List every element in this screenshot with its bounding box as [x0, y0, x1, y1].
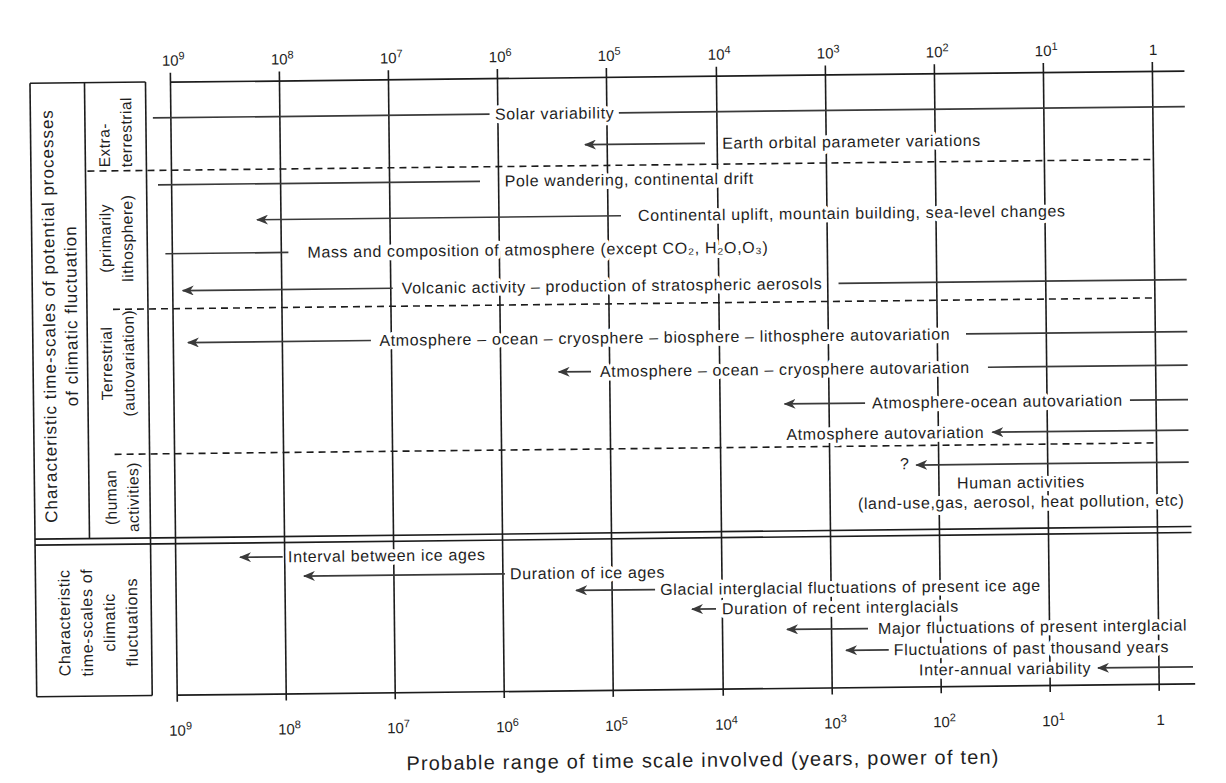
range-arrow-atmosphere-autovariation [992, 430, 1188, 432]
category-lithosphere-line-2: lithosphere) [118, 195, 136, 282]
fluctuation-labels: Interval between ice ages Duration of ic… [288, 538, 1188, 685]
bottom-tick-label: 103 [824, 712, 847, 731]
process-label: Continental uplift, mountain building, s… [638, 202, 1066, 224]
bottom-tick-label: 108 [278, 718, 301, 737]
range-arrow-orbital [585, 143, 705, 144]
fluctuations-title-line-4: fluctuations [123, 578, 141, 667]
top-tick-label: 108 [271, 48, 294, 67]
gridline-1e5 [606, 68, 613, 697]
top-tick-label: 105 [598, 45, 621, 64]
top-tick-labels: 109 108 107 106 105 104 103 102 101 1 [162, 39, 1158, 69]
category-extraterrestrial-line-2: terrestrial [117, 97, 135, 167]
range-line-atmosphere-composition [165, 252, 288, 253]
range-arrow-ocean-autovariation [785, 403, 865, 404]
fluctuations-panel-labels: Characteristic time-scales of climatic f… [55, 568, 141, 677]
human-activities-detail: (land-use,gas, aerosol, heat pollution, … [858, 492, 1185, 513]
bottom-tick-label: 106 [496, 716, 519, 735]
gridline-1e7 [388, 70, 395, 699]
section-divider-double-1 [35, 527, 1191, 540]
range-line-volcanic-right [839, 280, 1187, 284]
figure-content: Characteristic time-scales of potential … [30, 39, 1196, 779]
panel-left-edge [30, 83, 37, 696]
fluctuations-title-line-2: time-scales of [78, 569, 96, 677]
section-divider-double-2 [35, 533, 1191, 546]
process-label: Pole wandering, continental drift [504, 170, 753, 190]
range-line-solar-right [619, 107, 1185, 113]
human-activities-label: Human activities [957, 473, 1085, 491]
panel-bottom-edge [37, 695, 152, 696]
process-label: Atmosphere autovariation [786, 424, 984, 443]
bottom-axis-line [177, 684, 1195, 695]
climate-timescale-chart: Characteristic time-scales of potential … [0, 0, 1226, 783]
process-label: Solar variability [495, 104, 615, 122]
category-lithosphere-line-1: (primarily [96, 204, 114, 273]
range-arrow-glacial-interglacial [576, 590, 655, 591]
process-label: Mass and composition of atmosphere (exce… [307, 239, 768, 261]
range-line-cryosphere-autovariation-right [988, 365, 1188, 367]
category-extraterrestrial-line-1: Extra- [95, 123, 112, 168]
category-human-line-1: (human [102, 470, 120, 526]
category-separator-dashed-2 [113, 298, 1155, 309]
bottom-tick-label: 101 [1042, 710, 1065, 729]
range-arrow-continental-uplift [257, 216, 621, 220]
range-arrow-duration-ice-ages [304, 574, 505, 576]
bottom-tick-labels: 109 108 107 106 105 104 103 102 101 1 [169, 709, 1165, 739]
uncertainty-marker: ? [900, 455, 910, 472]
bottom-tick-label: 105 [605, 715, 628, 734]
category-human-line-2: activities) [124, 462, 142, 532]
bottom-tick-label: 107 [387, 717, 410, 736]
range-line-solar-left [153, 114, 490, 118]
process-label: Atmosphere-ocean autovariation [872, 392, 1123, 412]
fluctuation-label: Fluctuations of past thousand years [894, 638, 1170, 658]
fluctuation-label: Glacial interglacial fluctuations of pre… [660, 577, 1041, 598]
category-autovariation-line-2: (autovariation) [119, 310, 137, 417]
fluctuation-label: Duration of ice ages [510, 564, 665, 583]
top-tick-label: 104 [708, 44, 731, 63]
processes-panel-labels: Characteristic time-scales of potential … [38, 97, 142, 533]
top-tick-label: 107 [380, 47, 403, 66]
gridline-1 [1152, 62, 1159, 691]
bottom-tick-label: 102 [933, 711, 956, 730]
range-arrow-present-interglacial [787, 629, 868, 630]
top-tick-label: 103 [817, 42, 840, 61]
processes-title-line-2: of climatic fluctuation [61, 225, 82, 406]
category-separator-dashed-1 [87, 159, 1153, 171]
fluctuation-label: Major fluctuations of present interglaci… [878, 617, 1187, 637]
process-label: Earth orbital parameter variations [722, 132, 981, 152]
bottom-tick-label: 1 [1156, 711, 1165, 728]
bottom-tick-label: 104 [715, 714, 738, 733]
category-separator-dashed-3 [115, 443, 1157, 454]
category-autovariation-line-1: Terrestrial [98, 327, 116, 401]
gridline-1e6 [497, 69, 504, 698]
processes-title-line-1: Characteristic time-scales of potential … [38, 109, 62, 523]
gridline-1e1 [1043, 63, 1050, 692]
range-arrow-inter-annual [1098, 667, 1193, 668]
panel-category-divider [84, 83, 89, 539]
top-tick-label: 109 [162, 50, 185, 69]
process-label: Atmosphere – ocean – cryosphere – biosph… [379, 326, 950, 349]
top-tick-label: 101 [1035, 40, 1058, 59]
vertical-gridlines [170, 62, 1159, 702]
range-arrow-lithosphere-autovariation [188, 341, 371, 343]
top-tick-label: 106 [489, 46, 512, 65]
fluctuation-label: Inter-annual variability [919, 660, 1091, 679]
gridline-1e9 [170, 73, 177, 702]
top-tick-label: 102 [926, 41, 949, 60]
x-axis-title: Probable range of time scale involved (y… [406, 746, 1000, 775]
top-axis-line [170, 71, 1184, 82]
range-arrow-human-activities [916, 462, 1188, 465]
gridline-1e8 [279, 72, 286, 701]
process-label: Volcanic activity – production of strato… [402, 275, 823, 297]
fluctuation-label: Interval between ice ages [288, 546, 486, 565]
range-line-ocean-autovariation-right [1130, 400, 1188, 401]
range-line-pole-wandering [158, 181, 480, 185]
fluctuations-title-line-1: Characteristic [55, 569, 73, 676]
range-line-lithosphere-autovariation-right [966, 332, 1187, 334]
process-label: Atmosphere – ocean – cryosphere autovari… [600, 359, 970, 380]
range-arrow-volcanic [183, 288, 393, 290]
fluctuation-label: Duration of recent interglacials [722, 598, 959, 618]
panel-right-edge [145, 82, 152, 695]
top-tick-label: 1 [1149, 41, 1158, 58]
panel-top-edge [30, 82, 145, 83]
fluctuations-title-line-3: climatic [101, 593, 119, 652]
